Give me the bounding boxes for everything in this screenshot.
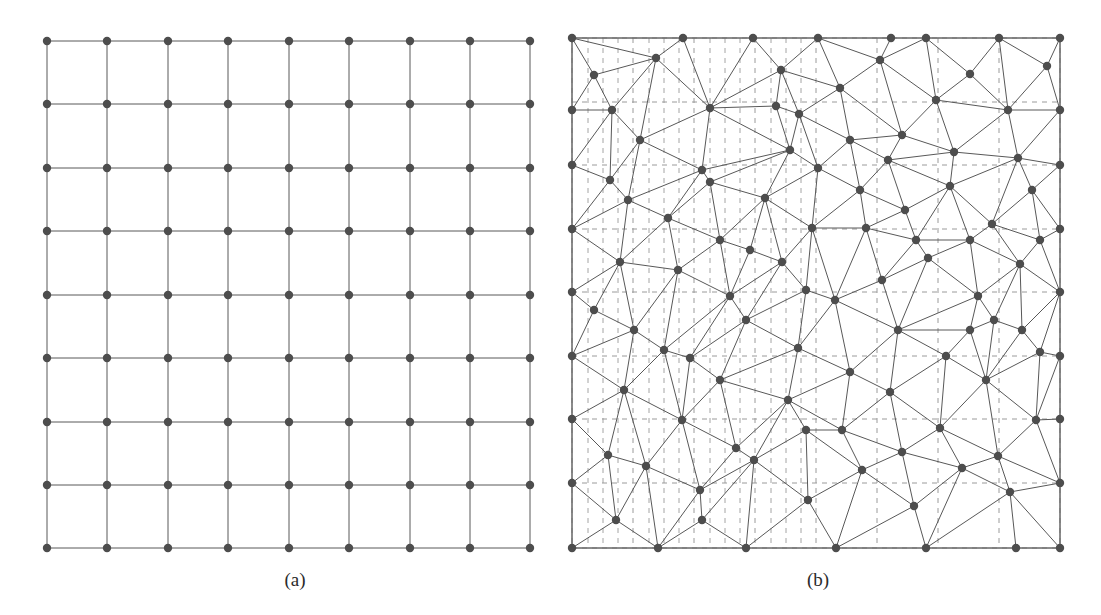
grid-node [103,37,111,45]
grid-node [224,481,232,489]
mesh-node [858,466,866,474]
grid-node [406,544,414,552]
mesh-node [814,164,822,172]
mesh-edge-305 [572,38,594,75]
figure-root: (a) (b) [0,0,1101,615]
mesh-edge-115 [572,356,624,390]
mesh-edge-90 [620,262,634,330]
mesh-edge-39 [612,110,640,140]
mesh-node [761,194,769,202]
mesh-edge-230 [890,392,902,452]
mesh-edge-262 [905,186,950,210]
mesh-edge-210 [610,110,612,180]
mesh-node [698,516,706,524]
mesh-node [568,544,576,552]
mesh-edge-36 [1047,66,1060,110]
mesh-edge-260 [888,152,954,160]
mesh-edge-137 [624,390,682,420]
mesh-edge-15 [799,88,840,114]
mesh-node [994,452,1002,460]
mesh-edge-147 [700,460,754,490]
grid-node [224,227,232,235]
mesh-node [936,424,944,432]
mesh-edge-57 [1018,158,1060,165]
grid-node [526,100,534,108]
mesh-node [1056,415,1064,423]
grid-node [406,164,414,172]
mesh-edge-269 [1032,190,1040,240]
grid-node [345,418,353,426]
mesh-node [990,316,998,324]
structured-grid-svg [0,0,550,560]
mesh-node [706,178,714,186]
grid-node [164,291,172,299]
mesh-node [1056,288,1064,296]
mesh-node [838,426,846,434]
mesh-edge-129 [946,356,986,380]
grid-node [466,100,474,108]
grid-node [224,418,232,426]
mesh-edge-31 [999,38,1008,110]
mesh-edge-121 [788,400,842,430]
mesh-edge-22 [880,38,926,60]
mesh-edge-205 [950,186,970,240]
grid-node [103,544,111,552]
mesh-edge-201 [812,228,835,300]
mesh-edge-65 [950,158,1018,186]
grid-node [526,37,534,45]
mesh-edge-46 [880,60,902,135]
grid-node [406,100,414,108]
mesh-node [726,292,734,300]
mesh-node [884,156,892,164]
mesh-edge-301 [994,320,1022,330]
grid-node [406,291,414,299]
mesh-edge-180 [594,310,634,330]
mesh-node [678,416,686,424]
mesh-edge-238 [986,380,998,456]
mesh-node [966,326,974,334]
mesh-node [716,376,724,384]
mesh-edge-50 [954,110,1008,152]
mesh-node [706,104,714,112]
mesh-node [698,166,706,174]
grid-node [345,544,353,552]
mesh-node [958,464,966,472]
panel-structured-grid [0,0,550,560]
grid-node [43,100,51,108]
mesh-edge-47 [840,88,902,135]
mesh-edge-16 [818,38,840,88]
mesh-edge-291 [806,430,808,500]
grid-node [103,481,111,489]
mesh-node [922,34,930,42]
mesh-edge-284 [700,490,702,520]
grid-node [43,354,51,362]
grid-node [285,418,293,426]
mesh-edge-32 [999,38,1047,66]
mesh-node [1056,106,1064,114]
mesh-node [568,106,576,114]
mesh-node [777,66,785,74]
mesh-edge-256 [888,135,902,160]
mesh-edge-293 [905,210,916,240]
mesh-edge-292 [806,430,862,470]
mesh-edge-154 [746,460,754,548]
grid-node [466,164,474,172]
mesh-edge-282 [608,455,616,520]
mesh-edge-128 [890,392,940,428]
mesh-edge-134 [986,380,1036,420]
mesh-edge-55 [954,152,1018,158]
mesh-node [642,462,650,470]
mesh-edge-199 [860,190,905,210]
mesh-node [966,236,974,244]
mesh-edge-221 [682,358,690,420]
mesh-edge-211 [572,165,610,180]
grid-node [345,481,353,489]
mesh-node [732,444,740,452]
mesh-node [568,352,576,360]
grid-node [285,37,293,45]
grid-node [406,37,414,45]
mesh-node [802,286,810,294]
mesh-node [568,225,576,233]
mesh-node [898,131,906,139]
mesh-edge-97 [835,300,850,372]
